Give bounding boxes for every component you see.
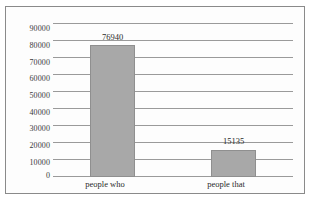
y-axis-tick-label: 40000: [4, 109, 50, 117]
x-axis-category-label: people that: [181, 179, 271, 189]
bar-people-who[interactable]: [90, 45, 135, 177]
gridline: [53, 108, 293, 109]
y-axis-tick-label: 20000: [4, 142, 50, 150]
bar-value-label: 76940: [80, 33, 145, 42]
y-axis-tick-label: 30000: [4, 125, 50, 133]
gridline: [53, 23, 293, 24]
y-axis-tick-label: 60000: [4, 75, 50, 83]
x-axis-category-label: people who: [60, 179, 150, 189]
y-axis-tick-label: 90000: [4, 25, 50, 33]
bar-chart-figure: 90000 80000 70000 60000 50000 40000 3000…: [5, 6, 305, 194]
gridline: [53, 57, 293, 58]
gridline: [53, 159, 293, 160]
bar-value-label: 15135: [201, 137, 266, 146]
gridline: [53, 91, 293, 92]
bar-people-that[interactable]: [211, 150, 256, 177]
y-axis: 90000 80000 70000 60000 50000 40000 3000…: [6, 23, 50, 177]
gridline: [53, 125, 293, 126]
gridline: [53, 74, 293, 75]
y-axis-tick-label: 80000: [4, 42, 50, 50]
y-axis-tick-label: 50000: [4, 92, 50, 100]
y-axis-tick-label: 10000: [4, 159, 50, 167]
x-axis: people who people that: [6, 179, 304, 195]
y-axis-tick-label: 70000: [4, 59, 50, 67]
plot-area: 76940 15135: [53, 23, 293, 177]
gridline: [53, 176, 293, 177]
